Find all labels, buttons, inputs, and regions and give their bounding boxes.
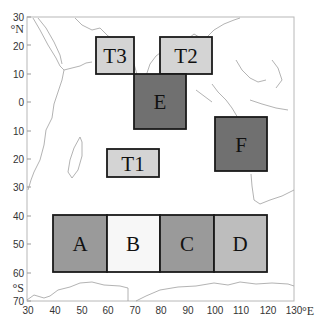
x-tick-70: 70 bbox=[129, 305, 141, 316]
label-t2: T2 bbox=[174, 44, 197, 68]
y-tick-20n: 20 bbox=[13, 41, 25, 52]
y-tick-40s: 40 bbox=[13, 211, 25, 222]
label-t1: T1 bbox=[121, 152, 144, 176]
x-tick-120: 120 bbox=[260, 305, 277, 316]
y-tick-50s: 50 bbox=[13, 239, 25, 250]
x-axis: 30 40 50 60 70 80 90 100 110 120 130 °E bbox=[22, 304, 314, 318]
x-tick-110: 110 bbox=[233, 305, 249, 316]
x-tick-50: 50 bbox=[76, 305, 88, 316]
x-tick-60: 60 bbox=[102, 305, 114, 316]
y-tick-0: 0 bbox=[18, 97, 24, 108]
y-tick-60s: 60 bbox=[13, 268, 25, 279]
indian-ocean-region-map: 30 20 10 0 10 20 30 40 50 60 70 °N °S 30… bbox=[0, 0, 316, 329]
label-t3: T3 bbox=[103, 44, 126, 68]
label-f: F bbox=[235, 133, 247, 157]
label-b: B bbox=[126, 232, 140, 256]
x-tick-40: 40 bbox=[49, 305, 61, 316]
y-tick-10s: 10 bbox=[13, 126, 25, 137]
y-tick-30s: 30 bbox=[13, 182, 25, 193]
x-tick-80: 80 bbox=[155, 305, 167, 316]
label-c: C bbox=[180, 232, 194, 256]
label-a: A bbox=[72, 232, 88, 256]
y-unit-south: °S bbox=[13, 281, 24, 295]
x-tick-30: 30 bbox=[22, 305, 34, 316]
x-tick-130: 130 bbox=[286, 305, 303, 316]
x-tick-100: 100 bbox=[207, 305, 224, 316]
label-d: D bbox=[232, 232, 247, 256]
y-tick-10n: 10 bbox=[13, 69, 25, 80]
x-unit-east: °E bbox=[302, 304, 314, 318]
y-tick-20s: 20 bbox=[13, 154, 25, 165]
label-e: E bbox=[154, 90, 167, 114]
x-tick-90: 90 bbox=[182, 305, 194, 316]
y-unit-north: °N bbox=[11, 22, 25, 36]
